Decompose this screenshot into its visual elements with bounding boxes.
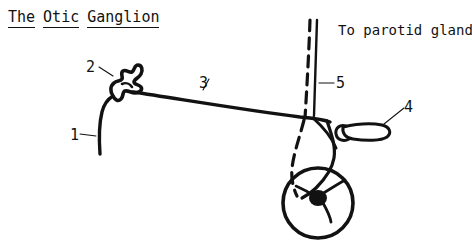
anatomy-line-drawing bbox=[0, 0, 472, 244]
label-5: 5 bbox=[336, 76, 345, 91]
leader-line-4 bbox=[384, 108, 404, 124]
gland-branch-upper bbox=[322, 180, 345, 194]
solid-vertical-branch bbox=[314, 20, 317, 116]
leader-line-1 bbox=[80, 134, 96, 136]
dashed-vertical-branch bbox=[305, 20, 310, 118]
figure-canvas: TheOticGanglion To parotid gland bbox=[0, 0, 472, 244]
nerve-trunk-descending bbox=[99, 96, 113, 154]
nerve-to-gland-curve bbox=[302, 121, 334, 198]
gland-branch-lower bbox=[323, 203, 331, 222]
auriculotemporal-nerve bbox=[133, 92, 330, 122]
label-3: 3 bbox=[199, 76, 208, 91]
otic-ganglion-inner-detail bbox=[122, 83, 132, 87]
label-4: 4 bbox=[404, 100, 413, 115]
dashed-secretomotor-pathway bbox=[292, 120, 304, 196]
label-2: 2 bbox=[86, 60, 95, 75]
leader-line-2 bbox=[99, 67, 113, 76]
label-1: 1 bbox=[70, 128, 79, 143]
